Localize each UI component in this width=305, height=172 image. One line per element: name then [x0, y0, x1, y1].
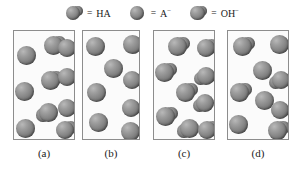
sphere-body-icon: [86, 37, 105, 56]
sphere-body-icon: [270, 35, 289, 54]
sphere-body-icon: [176, 83, 195, 102]
legend-label-charge: −: [167, 6, 171, 14]
sphere-body-icon: [197, 39, 215, 57]
panel-a-contents: [14, 31, 74, 139]
sphere-body-icon: [58, 68, 75, 86]
sphere-body-icon: [121, 122, 140, 140]
a-minus-sphere-icon: [130, 6, 147, 21]
particle-single-icon: [17, 46, 36, 65]
legend-label-ha: HA: [96, 9, 110, 19]
particle-composite-icon: [155, 63, 183, 82]
particle-single-icon: [87, 83, 106, 102]
particle-single-icon: [58, 68, 75, 86]
sphere-body-icon: [190, 6, 204, 20]
particle-single-icon: [122, 99, 140, 117]
particle-single-icon: [104, 59, 123, 78]
sphere-body-icon: [16, 119, 35, 138]
particle-single-icon: [271, 101, 289, 119]
panel-d: [227, 30, 289, 140]
legend-entry-aminus: =A−: [130, 6, 172, 21]
sphere-body-icon: [268, 121, 287, 140]
sphere-body-icon: [122, 99, 140, 117]
sphere-body-icon: [66, 6, 80, 20]
oh-minus-composite-sphere-icon: [190, 6, 207, 21]
particle-single-icon: [89, 113, 108, 132]
sphere-body-icon: [39, 103, 58, 122]
legend-label-base: HA: [96, 8, 110, 19]
particle-single-icon: [58, 39, 75, 57]
sphere-body-icon: [17, 46, 36, 65]
legend-label-base: OH: [221, 8, 235, 19]
particle-composite-icon: [198, 121, 215, 139]
panel-caption-d: (d): [227, 146, 289, 160]
panel-d-contents: [228, 31, 288, 139]
legend-equals-sign: =: [86, 9, 93, 19]
sphere-body-icon: [89, 113, 108, 132]
sphere-body-icon: [272, 71, 289, 89]
particle-composite-icon: [230, 83, 258, 102]
particle-single-icon: [229, 115, 248, 134]
panel-c: [153, 30, 215, 140]
sphere-body-icon: [271, 101, 289, 119]
particle-single-icon: [16, 119, 35, 138]
particle-composite-icon: [168, 37, 196, 56]
particle-composite-icon: [197, 39, 215, 57]
panel-b-contents: [83, 31, 139, 139]
particle-single-icon: [270, 35, 289, 54]
sphere-body-icon: [155, 63, 174, 82]
particle-single-icon: [58, 99, 75, 117]
particle-composite-icon: [196, 94, 215, 112]
ha-composite-sphere-icon-glyph: [66, 6, 87, 20]
oh-minus-composite-sphere-icon-glyph: [190, 6, 211, 20]
panel-a: [13, 30, 75, 140]
legend-equals-sign: =: [210, 9, 217, 19]
particle-composite-icon: [56, 121, 75, 139]
sphere-body-icon: [253, 61, 272, 80]
panel-c-contents: [154, 31, 214, 139]
legend-label-charge: −: [235, 6, 239, 14]
panel-caption-c: (c): [153, 146, 215, 160]
caption-row: (a)(b)(c)(d): [0, 146, 305, 166]
particle-composite-icon: [272, 71, 289, 89]
sphere-body-icon: [180, 119, 199, 138]
ha-composite-sphere-icon: [66, 6, 83, 21]
a-minus-sphere-icon-glyph: [130, 6, 144, 20]
sphere-body-icon: [230, 83, 249, 102]
particle-single-icon: [123, 71, 140, 89]
panel-row: [0, 28, 305, 145]
legend-label-aminus: A−: [160, 9, 171, 19]
panel-caption-b: (b): [82, 146, 140, 160]
sphere-body-icon: [58, 99, 75, 117]
sphere-body-icon: [229, 115, 248, 134]
sphere-body-icon: [233, 37, 252, 56]
particle-single-icon: [121, 122, 140, 140]
sphere-body-icon: [58, 39, 75, 57]
sphere-body-icon: [198, 121, 215, 139]
legend-entry-ohminus: =OH−: [190, 6, 239, 21]
sphere-body-icon: [168, 37, 187, 56]
legend-entry-ha: =HA: [66, 6, 111, 21]
sphere-body-icon: [15, 82, 34, 101]
particle-single-icon: [253, 61, 272, 80]
sphere-body-icon: [104, 59, 123, 78]
sphere-body-icon: [123, 35, 140, 54]
particle-composite-icon: [233, 37, 261, 56]
sphere-body-icon: [123, 71, 140, 89]
legend-label-ohminus: OH−: [221, 9, 239, 19]
sphere-body-icon: [56, 121, 74, 139]
particle-single-icon: [15, 82, 34, 101]
sphere-body-icon: [196, 94, 214, 112]
sphere-body-icon: [130, 6, 144, 20]
particle-composite-icon: [268, 121, 289, 140]
legend-equals-sign: =: [150, 9, 157, 19]
particle-single-icon: [86, 37, 105, 56]
sphere-body-icon: [156, 107, 175, 126]
sphere-body-icon: [87, 83, 106, 102]
particle-single-icon: [123, 35, 140, 54]
panel-caption-a: (a): [13, 146, 75, 160]
panel-b: [82, 30, 140, 140]
legend: =HA=A−=OH−: [0, 0, 305, 27]
